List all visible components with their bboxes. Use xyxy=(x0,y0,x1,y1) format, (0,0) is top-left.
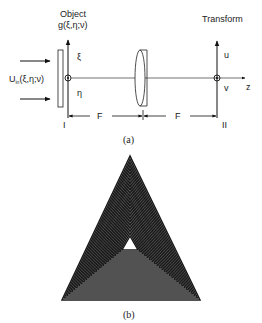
focal-length-left-label: F xyxy=(97,111,103,121)
figure-b-nested-triangle-pattern xyxy=(62,156,200,300)
xi-axis-label: ξ xyxy=(77,52,81,62)
plane-one-label: I xyxy=(63,120,66,130)
eta-dot-icon xyxy=(67,77,69,79)
object-plate xyxy=(58,50,63,107)
u-axis-label: u xyxy=(224,50,229,60)
focal-length-right-label: F xyxy=(175,111,181,121)
v-dot-icon xyxy=(216,77,218,79)
object-function-label: g(ξ,η;ν) xyxy=(58,20,88,30)
lens xyxy=(135,50,147,106)
diagram-canvas: Object g(ξ,η;ν) Transform Uin(ξ,η;ν) ξ η… xyxy=(0,0,262,323)
input-field-label: Uin(ξ,η;ν) xyxy=(9,74,44,85)
z-axis-label: z xyxy=(246,82,251,92)
plane-two-label: II xyxy=(222,120,227,130)
figure-a-optical-setup: Object g(ξ,η;ν) Transform Uin(ξ,η;ν) ξ η… xyxy=(9,9,251,146)
transform-label: Transform xyxy=(202,14,243,24)
v-axis-label: v xyxy=(224,83,229,93)
figure-a-caption: (a) xyxy=(123,134,134,146)
figure-b-caption: (b) xyxy=(123,309,135,321)
object-label: Object xyxy=(60,9,87,19)
eta-axis-label: η xyxy=(77,88,82,98)
